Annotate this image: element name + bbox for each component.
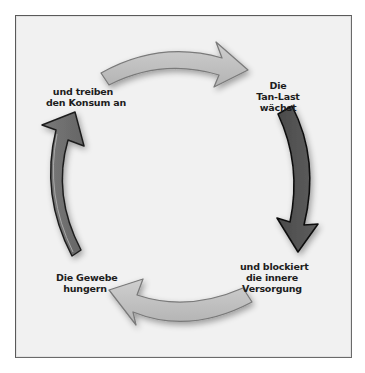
label-line: und blockiert (240, 261, 304, 272)
label-line: Tan-Last (256, 91, 300, 102)
label-gewebe: Die Gewebe hungern (56, 272, 114, 294)
label-line: und treiben (46, 86, 120, 97)
label-line: den Konsum an (46, 97, 120, 108)
label-konsum: und treiben den Konsum an (46, 86, 120, 108)
label-line: Die (256, 80, 300, 91)
arrow-bottom-blockiert-to-gewebe (109, 279, 252, 325)
arrow-top-konsum-to-tan-last (101, 42, 248, 87)
label-blockiert: und blockiert die innere Versorgung (240, 261, 304, 294)
arrow-left-gewebe-to-konsum (42, 112, 84, 256)
cycle-arrows (0, 0, 365, 373)
label-line: hungern (56, 283, 114, 294)
arrow-right-tan-last-to-blockiert (277, 106, 318, 252)
label-line: Die Gewebe (56, 272, 114, 283)
label-line: die innere (240, 272, 304, 283)
label-tan-last: Die Tan-Last wächst (256, 80, 300, 113)
label-line: Versorgung (240, 283, 304, 294)
label-line: wächst (256, 102, 300, 113)
